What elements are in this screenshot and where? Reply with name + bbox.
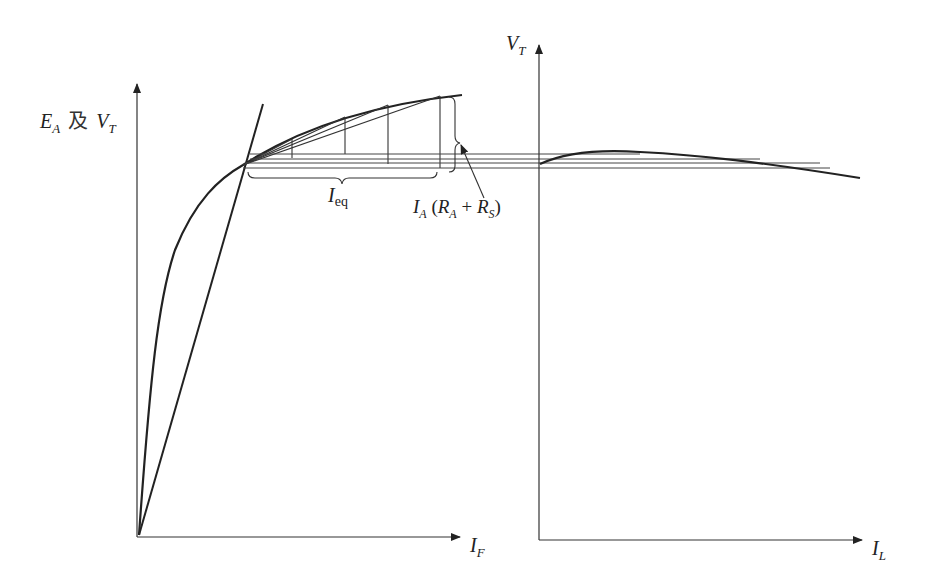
ieq-label: Ieq	[327, 184, 348, 209]
magnetization-curve	[139, 95, 462, 535]
left-plot: EA及VT IF Ieq IA (RA + RS)	[39, 84, 830, 560]
left-x-axis-label: IF	[469, 534, 486, 560]
right-y-axis-label: VT	[506, 32, 526, 58]
right-plot: VT IL	[506, 32, 886, 563]
armature-drop-label: IA (RA + RS)	[412, 196, 501, 221]
construction-lines	[243, 96, 440, 168]
drop-arrow	[461, 145, 484, 198]
right-x-axis-label: IL	[871, 537, 886, 563]
cumulative-compound-generator-diagram: EA及VT IF Ieq IA (RA + RS) VT IL	[0, 0, 933, 584]
ieq-brace	[248, 172, 437, 184]
drop-brace	[449, 97, 460, 172]
terminal-characteristic-curve	[540, 151, 860, 178]
left-y-axis-label: EA及VT	[39, 109, 116, 136]
field-resistance-line	[139, 104, 263, 535]
